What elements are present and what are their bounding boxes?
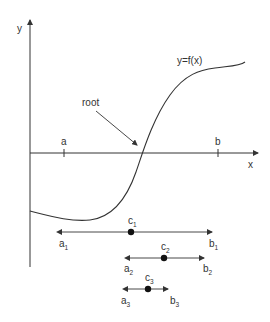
c1-label: c1 <box>128 215 137 228</box>
c3-label: c3 <box>145 272 154 285</box>
curve-label: y=f(x) <box>177 55 202 66</box>
interval-2: c2 a2 b2 <box>124 241 213 276</box>
b2-label: b2 <box>203 263 213 276</box>
midpoint-c1 <box>128 229 134 235</box>
tick-b-label: b <box>215 136 221 147</box>
c2-label: c2 <box>161 241 170 254</box>
a1-label: a1 <box>59 238 69 251</box>
interval-3: c3 a3 b3 <box>121 272 180 308</box>
bisection-diagram: y x a b y=f(x) root c1 a1 b1 c2 a2 b2 <box>0 0 270 322</box>
root-label: root <box>82 97 99 108</box>
x-axis-label: x <box>248 159 253 170</box>
y-axis-label: y <box>17 23 22 34</box>
y-axis: y <box>17 20 30 267</box>
tick-a-label: a <box>61 136 67 147</box>
tick-b: b <box>215 136 221 157</box>
tick-a: a <box>61 136 67 157</box>
b3-label: b3 <box>170 295 180 308</box>
b1-label: b1 <box>209 238 219 251</box>
a3-label: a3 <box>121 295 131 308</box>
root-annotation: root <box>82 97 137 145</box>
a2-label: a2 <box>124 263 134 276</box>
midpoint-c2 <box>161 255 167 261</box>
midpoint-c3 <box>145 286 151 292</box>
